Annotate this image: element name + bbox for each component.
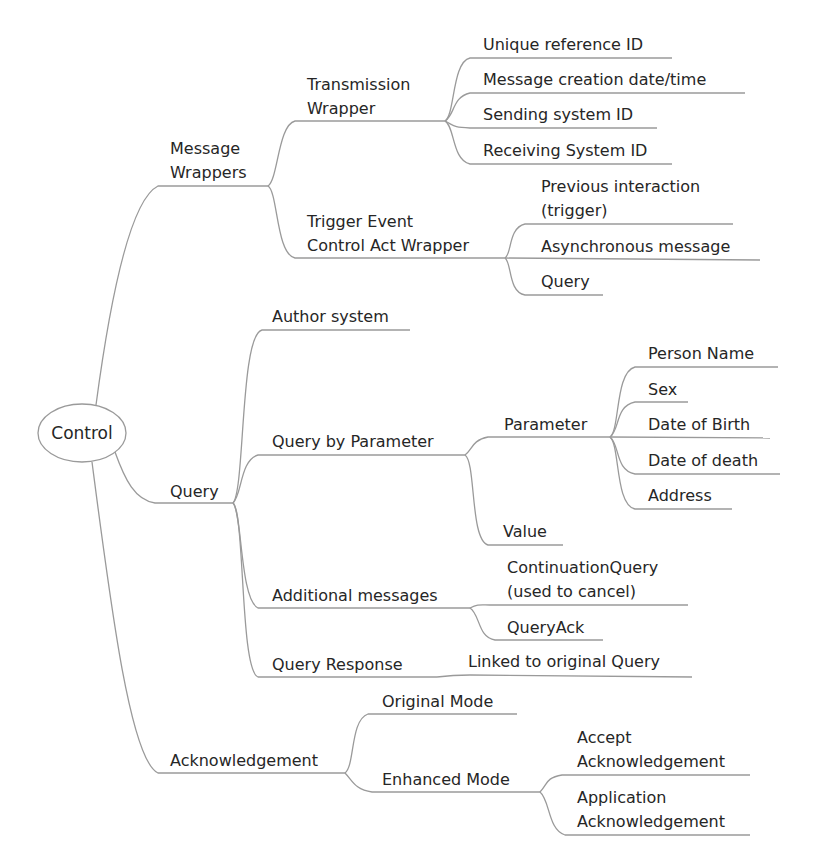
node-acknowledgement[interactable]: Acknowledgement bbox=[170, 749, 318, 773]
node-author-system[interactable]: Author system bbox=[272, 305, 389, 329]
node-queryack[interactable]: QueryAck bbox=[507, 616, 584, 640]
node-sex[interactable]: Sex bbox=[648, 378, 677, 402]
edge-control-ack bbox=[92, 462, 345, 773]
node-date-of-death[interactable]: Date of death bbox=[648, 449, 758, 473]
node-previous-interaction[interactable]: Previous interaction (trigger) bbox=[541, 175, 700, 223]
node-linked-to-original-query[interactable]: Linked to original Query bbox=[468, 650, 660, 674]
node-address[interactable]: Address bbox=[648, 484, 712, 508]
node-asynchronous-message[interactable]: Asynchronous message bbox=[541, 235, 730, 259]
node-accept-acknowledgement[interactable]: Accept Acknowledgement bbox=[577, 726, 725, 774]
root-node-control[interactable]: Control bbox=[38, 423, 126, 443]
edge-q-qbp bbox=[233, 455, 465, 503]
edge-qbp-parameter bbox=[465, 437, 610, 455]
node-label-line: Accept bbox=[577, 726, 725, 750]
node-additional-messages[interactable]: Additional messages bbox=[272, 584, 438, 608]
node-enhanced-mode[interactable]: Enhanced Mode bbox=[382, 768, 510, 792]
node-trigger-event[interactable]: Trigger Event Control Act Wrapper bbox=[307, 210, 469, 258]
node-label-line: Wrapper bbox=[307, 97, 410, 121]
node-application-acknowledgement[interactable]: Application Acknowledgement bbox=[577, 786, 725, 834]
node-receiving-system-id[interactable]: Receiving System ID bbox=[483, 139, 647, 163]
node-query-by-parameter[interactable]: Query by Parameter bbox=[272, 430, 434, 454]
node-label-line: ContinuationQuery bbox=[507, 556, 658, 580]
node-label-line: Control Act Wrapper bbox=[307, 234, 469, 258]
node-label-line: Acknowledgement bbox=[577, 810, 725, 834]
node-label-line: Previous interaction bbox=[541, 175, 700, 199]
edge-param-dob bbox=[610, 437, 770, 438]
node-label-line: Message bbox=[170, 137, 247, 161]
node-label-line: Application bbox=[577, 786, 725, 810]
edge-qr-linked bbox=[437, 675, 692, 677]
edge-q-author bbox=[233, 330, 410, 503]
node-query-response[interactable]: Query Response bbox=[272, 653, 403, 677]
edge-control-message-wrappers bbox=[96, 186, 268, 405]
node-continuation-query[interactable]: ContinuationQuery (used to cancel) bbox=[507, 556, 658, 604]
node-label-line: Transmission bbox=[307, 73, 410, 97]
edge-am-continuation bbox=[470, 605, 688, 608]
node-original-mode[interactable]: Original Mode bbox=[382, 690, 493, 714]
edge-ack-original bbox=[345, 714, 517, 773]
node-parameter[interactable]: Parameter bbox=[504, 413, 587, 437]
node-message-creation[interactable]: Message creation date/time bbox=[483, 68, 706, 92]
node-sending-system-id[interactable]: Sending system ID bbox=[483, 103, 633, 127]
node-trigger-query[interactable]: Query bbox=[541, 270, 590, 294]
node-value[interactable]: Value bbox=[503, 520, 547, 544]
node-label-line: Wrappers bbox=[170, 161, 247, 185]
node-unique-reference-id[interactable]: Unique reference ID bbox=[483, 33, 643, 57]
node-label-line: (used to cancel) bbox=[507, 580, 658, 604]
root-node-label: Control bbox=[51, 423, 112, 443]
node-label-line: Trigger Event bbox=[307, 210, 469, 234]
node-transmission-wrapper[interactable]: Transmission Wrapper bbox=[307, 73, 410, 121]
node-query[interactable]: Query bbox=[170, 480, 219, 504]
node-label-line: (trigger) bbox=[541, 199, 700, 223]
node-message-wrappers[interactable]: Message Wrappers bbox=[170, 137, 247, 185]
node-date-of-birth[interactable]: Date of Birth bbox=[648, 413, 750, 437]
edge-mw-transmission bbox=[268, 121, 445, 186]
node-person-name[interactable]: Person Name bbox=[648, 342, 754, 366]
node-label-line: Acknowledgement bbox=[577, 750, 725, 774]
